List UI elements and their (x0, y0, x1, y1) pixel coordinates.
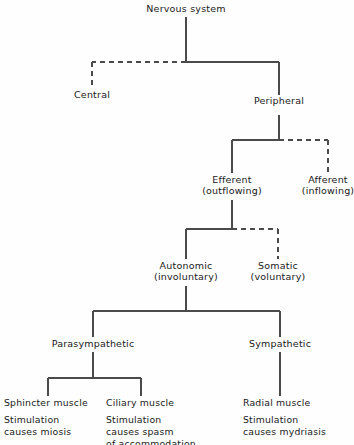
connector-lines (0, 0, 354, 445)
node-autonomic-label: Autonomic (154, 260, 218, 271)
leaf-sphincter-desc-1: Stimulation (4, 414, 88, 426)
node-autonomic-sublabel: (involuntary) (154, 271, 218, 282)
leaf-ciliary-desc-2: causes spasm (106, 426, 196, 438)
node-efferent-sublabel: (outflowing) (202, 185, 262, 196)
leaf-radial-desc-2: causes mydriasis (243, 426, 326, 438)
node-somatic-label: Somatic (251, 260, 306, 271)
node-sympathetic: Sympathetic (249, 338, 311, 349)
node-afferent-label: Afferent (302, 174, 354, 185)
leaf-ciliary-muscle: Ciliary muscle Stimulation causes spasm … (106, 397, 196, 445)
node-sympathetic-label: Sympathetic (249, 338, 311, 349)
leaf-sphincter-muscle: Sphincter muscle Stimulation causes mios… (4, 397, 88, 438)
node-efferent-label: Efferent (202, 174, 262, 185)
node-parasympathetic: Parasympathetic (52, 338, 135, 349)
node-central-label: Central (74, 89, 110, 100)
leaf-sphincter-title: Sphincter muscle (4, 397, 88, 409)
node-afferent: Afferent (inflowing) (302, 174, 354, 196)
node-somatic-sublabel: (voluntary) (251, 271, 306, 282)
leaf-ciliary-desc-1: Stimulation (106, 414, 196, 426)
node-nervous-system: Nervous system (146, 3, 225, 14)
node-somatic: Somatic (voluntary) (251, 260, 306, 282)
node-peripheral: Peripheral (254, 95, 304, 106)
leaf-radial-muscle: Radial muscle Stimulation causes mydrias… (243, 397, 326, 438)
node-peripheral-label: Peripheral (254, 95, 304, 106)
node-central: Central (74, 89, 110, 100)
leaf-ciliary-title: Ciliary muscle (106, 397, 196, 409)
leaf-sphincter-desc-2: causes miosis (4, 426, 88, 438)
node-nervous-system-label: Nervous system (146, 3, 225, 14)
node-parasympathetic-label: Parasympathetic (52, 338, 135, 349)
nervous-system-diagram: Nervous system Central Peripheral Effere… (0, 0, 354, 445)
leaf-ciliary-desc-3: of accommodation (106, 438, 196, 445)
node-efferent: Efferent (outflowing) (202, 174, 262, 196)
node-autonomic: Autonomic (involuntary) (154, 260, 218, 282)
leaf-radial-desc-1: Stimulation (243, 414, 326, 426)
node-afferent-sublabel: (inflowing) (302, 185, 354, 196)
leaf-radial-title: Radial muscle (243, 397, 326, 409)
